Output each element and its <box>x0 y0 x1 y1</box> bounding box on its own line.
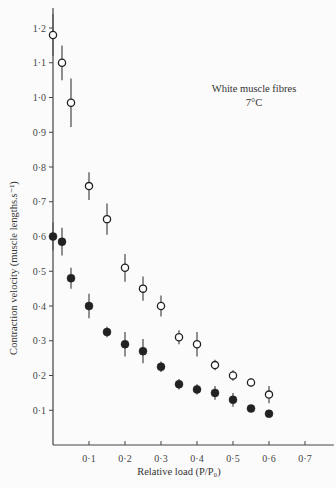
data-point-filled <box>67 274 75 282</box>
chart: 0·10·20·30·40·50·60·70·80·91·01·11·20·10… <box>0 0 336 488</box>
y-tick-label: 0·1 <box>33 405 46 416</box>
x-tick-label: 0·7 <box>298 453 311 464</box>
series-open-circles <box>49 14 272 403</box>
x-tick-label: 0·3 <box>154 453 167 464</box>
data-point-open <box>121 264 128 271</box>
data-point-filled <box>247 405 255 413</box>
data-point-open <box>229 372 236 379</box>
y-tick-label: 0·3 <box>33 335 46 346</box>
data-point-open <box>265 391 272 398</box>
axes: 0·10·20·30·40·50·60·70·80·91·01·11·20·10… <box>33 8 334 464</box>
data-point-filled <box>139 347 147 355</box>
data-point-filled <box>229 396 237 404</box>
data-point-filled <box>175 380 183 388</box>
x-tick-label: 0·6 <box>262 453 275 464</box>
data-point-filled <box>193 385 201 393</box>
data-point-filled <box>265 410 273 418</box>
annotation-line1: White muscle fibres <box>212 83 297 94</box>
x-tick-label: 0·2 <box>118 453 131 464</box>
data-point-filled <box>49 233 57 241</box>
data-point-filled <box>121 340 129 348</box>
data-point-filled <box>85 302 93 310</box>
data-point-open <box>247 379 254 386</box>
data-point-open <box>49 31 56 38</box>
x-tick-label: 0·1 <box>82 453 95 464</box>
y-tick-label: 0·6 <box>33 231 46 242</box>
data-series <box>49 14 273 418</box>
y-tick-label: 0·7 <box>33 196 46 207</box>
y-tick-label: 0·4 <box>33 301 46 312</box>
data-point-filled <box>58 238 66 246</box>
x-tick-label: 0·5 <box>226 453 239 464</box>
y-tick-label: 1·2 <box>33 23 46 34</box>
x-tick-label: 0·4 <box>190 453 203 464</box>
data-point-open <box>85 183 92 190</box>
data-point-open <box>175 334 182 341</box>
y-tick-label: 1·1 <box>33 57 46 68</box>
x-axis-title: Relative load (P/P₀) <box>137 466 221 478</box>
y-tick-label: 0·9 <box>33 127 46 138</box>
y-tick-label: 1·0 <box>33 92 46 103</box>
annotation-line2: 7°C <box>246 97 262 108</box>
y-tick-label: 0·2 <box>33 370 46 381</box>
data-point-open <box>211 361 218 368</box>
series-filled-circles <box>49 223 273 418</box>
data-point-open <box>193 341 200 348</box>
data-point-open <box>139 285 146 292</box>
data-point-filled <box>103 328 111 336</box>
data-point-open <box>67 99 74 106</box>
data-point-filled <box>157 363 165 371</box>
data-point-open <box>157 302 164 309</box>
y-tick-label: 0·5 <box>33 266 46 277</box>
data-point-open <box>103 216 110 223</box>
y-axis-title: Contraction velocity (muscle lengths.s⁻¹… <box>8 181 20 355</box>
data-point-filled <box>211 389 219 397</box>
y-tick-label: 0·8 <box>33 162 46 173</box>
data-point-open <box>58 59 65 66</box>
